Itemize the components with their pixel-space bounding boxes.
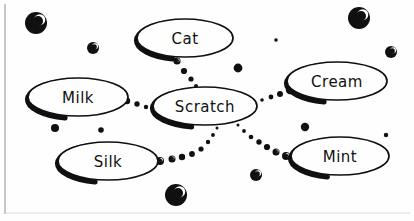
- node-label-scratch: Scratch: [175, 98, 235, 116]
- dot-right-lower: [301, 123, 309, 131]
- edge-dot: [134, 101, 139, 106]
- edge-dot: [242, 129, 246, 133]
- edge-dot: [216, 127, 219, 130]
- edge-dot: [260, 98, 264, 102]
- dot-top-right-large: [348, 7, 370, 29]
- dot-center-upper: [234, 64, 243, 73]
- concept-map-svg: ScratchCatMilkCreamSilkMint: [0, 0, 414, 221]
- edge-dot: [198, 146, 203, 151]
- edge-dot: [179, 154, 185, 160]
- edge-dot: [277, 91, 283, 97]
- node-label-silk: Silk: [94, 153, 123, 171]
- dot-far-right-lower: [384, 133, 388, 137]
- edge-dot: [144, 105, 148, 109]
- node-label-mint: Mint: [323, 148, 358, 166]
- diagram-canvas: ScratchCatMilkCreamSilkMint: [0, 0, 414, 221]
- edge-dot: [189, 151, 195, 157]
- node-label-milk: Milk: [62, 89, 94, 107]
- edge-dot: [269, 95, 274, 100]
- dot-left-lower: [51, 124, 59, 132]
- dot-bottom-mid: [250, 169, 262, 181]
- edge-dot: [211, 133, 215, 137]
- dot-top-left-large: [25, 12, 47, 34]
- dot-far-right-upper: [385, 46, 397, 58]
- edge-dot: [237, 124, 240, 127]
- dot-left-lower-small: [98, 127, 104, 133]
- edge-dot: [256, 139, 261, 144]
- edge-dot: [264, 144, 270, 150]
- dot-upper-left-mid: [87, 42, 99, 54]
- dot-bottom-center-large: [165, 184, 187, 206]
- node-label-cat: Cat: [171, 30, 198, 48]
- edge-dot: [181, 68, 187, 74]
- edge-dot: [249, 135, 254, 140]
- edge-dot: [188, 76, 193, 81]
- dot-center-top-tiny: [274, 38, 278, 42]
- node-label-cream: Cream: [311, 73, 363, 91]
- edge-dot: [206, 140, 210, 144]
